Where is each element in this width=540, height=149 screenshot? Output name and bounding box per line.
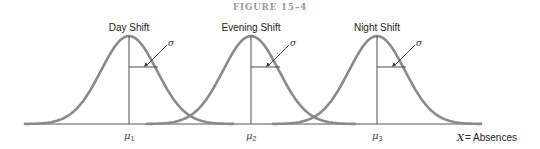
sigma-label-1: σ bbox=[168, 38, 175, 48]
normal-curves-figure: FIGURE 15–4 σDay Shiftμ1σEvening Shiftμ2… bbox=[0, 0, 540, 149]
sigma-label-2: σ bbox=[290, 38, 297, 48]
mean-subscript-1: 1 bbox=[131, 135, 135, 142]
curve-label-2: Evening Shift bbox=[222, 22, 281, 33]
sigma-arrowhead-icon bbox=[392, 63, 397, 68]
x-axis-label: = Absences bbox=[465, 132, 517, 143]
mean-subscript-3: 3 bbox=[379, 135, 383, 142]
x-axis-variable: X bbox=[456, 132, 465, 143]
distribution-plot: σDay Shiftμ1σEvening Shiftμ2σNight Shift… bbox=[0, 0, 540, 149]
curve-label-3: Night Shift bbox=[354, 22, 400, 33]
mean-subscript-2: 2 bbox=[253, 135, 257, 142]
sigma-arrowhead-icon bbox=[266, 63, 271, 68]
sigma-arrowhead-icon bbox=[144, 63, 149, 68]
sigma-label-3: σ bbox=[416, 38, 423, 48]
curve-label-1: Day Shift bbox=[109, 22, 150, 33]
